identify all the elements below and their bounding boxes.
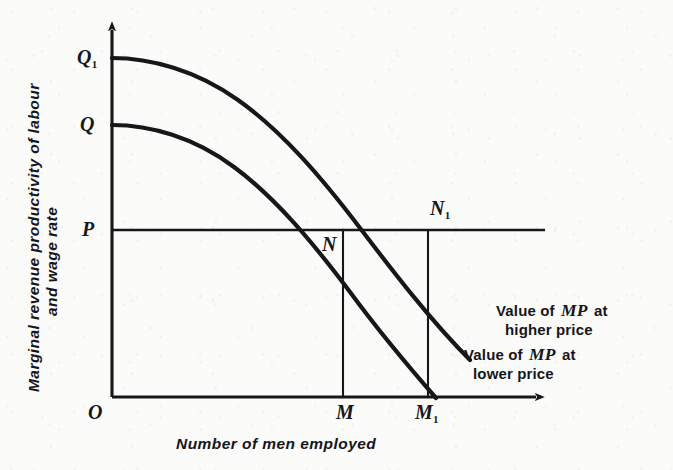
legend-higher-price-suffix: at bbox=[590, 302, 608, 319]
mp-curve-higher-price bbox=[112, 58, 470, 360]
legend-lower-price-line-1: Value of MP at bbox=[464, 344, 576, 365]
y-axis-title-line-1: Marginal revenue productivity of labour bbox=[26, 83, 42, 392]
origin-label: O bbox=[88, 402, 103, 422]
legend-higher-price-mp: MP bbox=[559, 300, 590, 320]
marker-q1-letter: Q bbox=[77, 46, 92, 68]
figure-canvas: Marginal revenue productivity of labour … bbox=[0, 0, 673, 470]
legend-higher-price: Value of MP at higher price bbox=[496, 300, 608, 338]
marker-n1-letter: N bbox=[430, 197, 445, 219]
legend-lower-price-line-2: lower price bbox=[473, 365, 576, 383]
x-axis-title: Number of men employed bbox=[176, 436, 376, 452]
marker-n: N bbox=[322, 234, 337, 254]
marker-m1: M1 bbox=[415, 402, 439, 422]
legend-higher-price-line-1: Value of MP at bbox=[496, 300, 608, 321]
marker-m1-letter: M bbox=[415, 401, 433, 423]
marker-q: Q bbox=[80, 114, 95, 134]
legend-higher-price-line-2: higher price bbox=[505, 321, 608, 339]
y-axis-title: Marginal revenue productivity of labour … bbox=[26, 83, 59, 392]
y-axis-title-line-2: and wage rate bbox=[44, 83, 60, 316]
marker-n1: N1 bbox=[430, 198, 450, 218]
legend-lower-price-prefix: Value of bbox=[464, 346, 527, 363]
marker-q1: Q1 bbox=[77, 47, 97, 67]
legend-lower-price-mp: MP bbox=[527, 344, 558, 364]
marker-m1-subscript: 1 bbox=[433, 413, 439, 425]
legend-lower-price: Value of MP at lower price bbox=[464, 344, 576, 382]
marker-p: P bbox=[82, 219, 94, 239]
marker-m: M bbox=[336, 402, 354, 422]
marker-q1-subscript: 1 bbox=[92, 58, 98, 70]
marker-n1-subscript: 1 bbox=[445, 209, 451, 221]
legend-lower-price-suffix: at bbox=[558, 346, 576, 363]
legend-higher-price-prefix: Value of bbox=[496, 302, 559, 319]
